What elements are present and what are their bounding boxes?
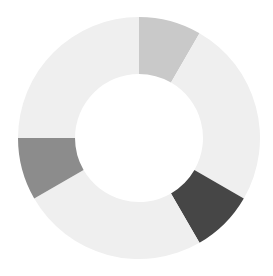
donut-chart <box>0 0 273 276</box>
donut-chart-svg <box>0 0 273 276</box>
donut-slice <box>18 17 139 138</box>
